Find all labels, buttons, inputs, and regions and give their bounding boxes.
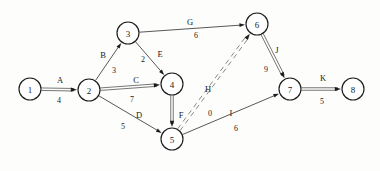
edge-h-rail: [178, 35, 247, 129]
edge-label-i: I: [230, 108, 233, 118]
edge-f: [170, 96, 174, 128]
node-7[interactable]: 7: [279, 78, 301, 100]
node-4-label: 4: [170, 80, 175, 90]
edge-d-line: [99, 96, 159, 132]
edge-b: [95, 43, 121, 81]
node-3[interactable]: 3: [117, 22, 139, 44]
edge-g-arrow-icon: [239, 23, 245, 27]
node-2[interactable]: 2: [78, 79, 100, 101]
edge-weight-e: 2: [141, 55, 145, 64]
edge-a: [41, 88, 77, 92]
edge-b-line: [95, 45, 119, 80]
node-8-label: 8: [351, 85, 356, 95]
edge-label-c: C: [133, 75, 139, 85]
edge-h-arrow-icon: [244, 34, 249, 40]
node-5-label: 5: [170, 135, 175, 145]
edge-label-b: B: [100, 50, 106, 60]
node-8[interactable]: 8: [342, 78, 364, 100]
node-6[interactable]: 6: [246, 13, 268, 35]
edge-c-arrow-icon: [154, 83, 160, 87]
edge-a-rail: [42, 88, 74, 89]
edge-weight-g: 6: [194, 31, 198, 40]
edge-weight-j: 9: [264, 65, 268, 74]
node-1[interactable]: 1: [19, 78, 41, 100]
graph-figure: 12345678 A4B3C7D5E2FG6H0I6J9K5: [0, 0, 380, 171]
edge-c: [100, 83, 160, 90]
node-5[interactable]: 5: [161, 128, 183, 150]
edge-d-arrow-icon: [156, 128, 162, 132]
edge-weight-d: 5: [121, 122, 125, 131]
edge-b-arrow-icon: [116, 43, 121, 49]
graph-canvas: 12345678 A4B3C7D5E2FG6H0I6J9K5: [0, 0, 380, 171]
node-6-label: 6: [255, 20, 260, 30]
edge-k-arrow-icon: [335, 87, 341, 91]
edge-a-arrow-icon: [71, 88, 77, 92]
edge-label-h: H: [205, 84, 211, 94]
edge-weight-i: 6: [234, 124, 238, 133]
edge-a-rail: [41, 90, 73, 91]
edge-label-k: K: [320, 73, 327, 83]
edge-h-rail: [180, 37, 249, 131]
edge-weight-a: 4: [57, 96, 61, 105]
edge-weight-k: 5: [320, 97, 324, 106]
edge-h: [178, 34, 250, 131]
nodes-layer: 12345678: [19, 13, 364, 150]
edge-i-arrow-icon: [273, 94, 279, 98]
edge-label-g: G: [187, 17, 193, 27]
node-3-label: 3: [126, 29, 131, 39]
node-2-label: 2: [87, 86, 92, 96]
node-4[interactable]: 4: [161, 73, 183, 95]
edge-label-f: F: [179, 110, 184, 120]
edge-label-e: E: [157, 49, 162, 59]
edge-label-d: D: [136, 110, 142, 120]
node-1-label: 1: [28, 85, 33, 95]
edge-weight-c: 7: [130, 95, 134, 104]
edge-f-arrow-icon: [170, 121, 174, 127]
edge-label-a: A: [57, 75, 64, 85]
edge-weight-b: 3: [112, 66, 116, 75]
edge-weight-h: 0: [208, 109, 212, 118]
edge-k: [302, 87, 342, 91]
edge-label-j: J: [275, 45, 279, 55]
node-7-label: 7: [288, 85, 293, 95]
